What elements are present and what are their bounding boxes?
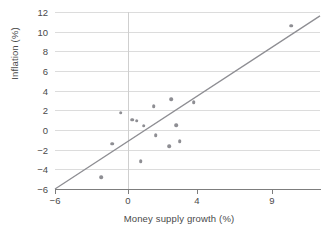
trend-line bbox=[55, 12, 320, 189]
y-tick-label-2: 2 bbox=[22, 105, 48, 116]
gridline-y-10 bbox=[55, 32, 320, 33]
data-point bbox=[110, 142, 114, 146]
data-point bbox=[119, 111, 123, 115]
x-tick-0 bbox=[128, 189, 129, 194]
gridline-y--2 bbox=[55, 150, 320, 151]
y-tick-label-8: 8 bbox=[22, 46, 48, 57]
data-point bbox=[135, 119, 139, 123]
gridline-y--4 bbox=[55, 169, 320, 170]
y-tick-label--2: −2 bbox=[22, 144, 48, 155]
x-axis-line bbox=[55, 189, 321, 190]
x-tick-label-0: 0 bbox=[125, 195, 130, 206]
x-axis-title: Money supply growth (%) bbox=[0, 213, 332, 224]
zero-vertical-line bbox=[128, 12, 129, 189]
y-tick-label-12: 12 bbox=[22, 7, 48, 18]
x-tick-label-9: 9 bbox=[269, 195, 274, 206]
y-tick-label--4: −4 bbox=[22, 164, 48, 175]
x-tick-9 bbox=[272, 189, 273, 194]
data-point bbox=[139, 159, 143, 163]
x-tick-label-4: 4 bbox=[194, 195, 199, 206]
gridline-y-6 bbox=[55, 71, 320, 72]
gridline-y-2 bbox=[55, 110, 320, 111]
y-tick-label-4: 4 bbox=[22, 85, 48, 96]
plot-area bbox=[55, 12, 320, 189]
data-point bbox=[168, 144, 172, 148]
data-point bbox=[131, 118, 135, 122]
data-point bbox=[178, 140, 182, 144]
data-point bbox=[192, 100, 196, 104]
scatter-plot-figure: Inflation (%) −6−4−2024681012 −6049 Mone… bbox=[0, 0, 332, 230]
data-point bbox=[99, 175, 103, 179]
x-tick-4 bbox=[197, 189, 198, 194]
y-tick-label-0: 0 bbox=[22, 125, 48, 136]
data-point bbox=[152, 105, 156, 109]
x-tick-label--6: −6 bbox=[50, 195, 61, 206]
gridline-y-4 bbox=[55, 91, 320, 92]
y-tick-label--6: −6 bbox=[22, 184, 48, 195]
x-tick--6 bbox=[55, 189, 56, 194]
y-tick-label-6: 6 bbox=[22, 66, 48, 77]
gridline-y-8 bbox=[55, 51, 320, 52]
y-tick-label-10: 10 bbox=[22, 26, 48, 37]
data-point bbox=[175, 123, 179, 127]
data-point bbox=[289, 24, 293, 28]
data-point bbox=[154, 134, 158, 138]
gridline-y-12 bbox=[55, 12, 320, 13]
y-axis-title: Inflation (%) bbox=[9, 0, 20, 114]
data-point bbox=[169, 97, 173, 101]
data-point bbox=[142, 124, 146, 128]
gridline-y-0 bbox=[55, 130, 320, 131]
